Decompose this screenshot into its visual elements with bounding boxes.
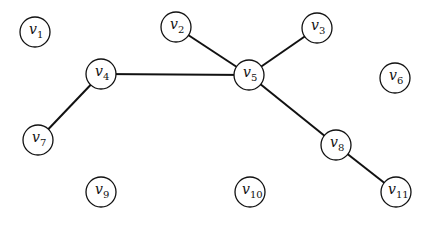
node-v9: v9	[86, 177, 116, 207]
node-v4: v4	[86, 59, 116, 89]
node-v8: v8	[321, 130, 351, 160]
node-layer: v1v2v3v4v5v6v7v8v9v10v11	[20, 12, 411, 207]
graph-diagram: v1v2v3v4v5v6v7v8v9v10v11	[0, 0, 433, 227]
edge-v5-v8	[249, 75, 336, 145]
node-v6: v6	[380, 63, 410, 93]
edge-layer	[38, 27, 396, 192]
node-v3: v3	[302, 13, 332, 43]
edge-v4-v5	[101, 74, 249, 75]
node-v10: v10	[235, 177, 265, 207]
node-v11: v11	[381, 177, 411, 207]
node-v7: v7	[23, 125, 53, 155]
node-v2: v2	[161, 12, 191, 42]
node-v1: v1	[20, 17, 50, 47]
node-v5: v5	[234, 60, 264, 90]
